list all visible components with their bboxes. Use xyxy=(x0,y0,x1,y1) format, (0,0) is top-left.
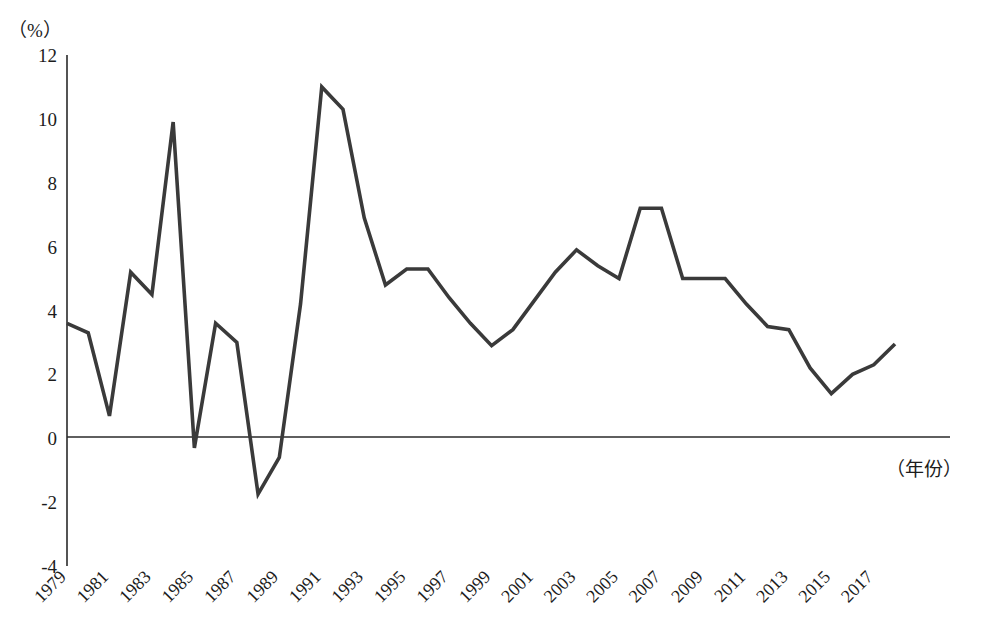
x-tick-label: 2003 xyxy=(540,567,580,607)
y-tick-label: 12 xyxy=(38,45,57,66)
x-tick-label: 2001 xyxy=(497,567,537,607)
x-axis-tick-labels: 1979198119831985198719891991199319951997… xyxy=(30,567,876,607)
y-tick-label: 0 xyxy=(48,428,58,449)
x-tick-label: 2013 xyxy=(752,567,792,607)
x-tick-label: 1989 xyxy=(243,567,283,607)
x-tick-label: 2007 xyxy=(625,567,665,607)
x-tick-label: 1991 xyxy=(285,567,325,607)
x-tick-label: 1999 xyxy=(455,567,495,607)
x-tick-label: 2015 xyxy=(795,567,835,607)
x-tick-label: 2009 xyxy=(667,567,707,607)
y-axis-tick-labels: 121086420-2-4 xyxy=(38,45,58,577)
y-tick-label: 10 xyxy=(38,109,57,130)
x-tick-label: 1987 xyxy=(200,567,240,607)
x-tick-label: 1993 xyxy=(327,567,367,607)
x-tick-label: 1981 xyxy=(73,567,113,607)
data-series-line xyxy=(67,87,895,494)
y-tick-label: 6 xyxy=(48,237,58,258)
y-tick-label: 2 xyxy=(48,364,58,385)
chart-page: （%） （年份） 121086420-2-4 19791981198319851… xyxy=(0,0,993,638)
y-tick-label: 8 xyxy=(48,173,58,194)
x-tick-label: 2005 xyxy=(582,567,622,607)
x-tick-label: 1979 xyxy=(30,567,70,607)
x-axis-unit-label: （年份） xyxy=(886,459,962,480)
x-tick-label: 2017 xyxy=(837,567,877,607)
x-tick-label: 1983 xyxy=(115,567,155,607)
x-tick-label: 1985 xyxy=(158,567,198,607)
y-axis-unit-label: （%） xyxy=(8,20,62,41)
x-tick-label: 1997 xyxy=(412,567,452,607)
x-tick-label: 1995 xyxy=(370,567,410,607)
y-tick-label: -2 xyxy=(41,492,57,513)
line-chart: （%） （年份） 121086420-2-4 19791981198319851… xyxy=(0,0,993,638)
x-tick-label: 2011 xyxy=(710,567,749,606)
y-tick-label: 4 xyxy=(48,301,58,322)
